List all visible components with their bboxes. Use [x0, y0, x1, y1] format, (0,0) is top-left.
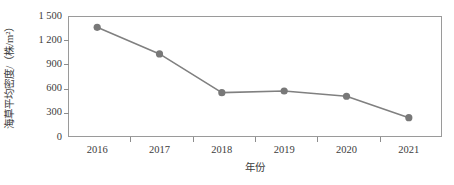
- x-axis-tick-mark: [255, 137, 256, 142]
- y-axis-tick-label: 1 500: [38, 11, 62, 22]
- y-axis-tick-label: 300: [46, 107, 62, 118]
- y-axis-title-text: 海草平均密度/（株/m²）: [6, 21, 17, 128]
- y-axis-title: 海草平均密度/（株/m²）: [0, 0, 22, 150]
- data-point-marker: [94, 24, 101, 31]
- x-axis-tick-label: 2021: [398, 145, 419, 156]
- data-point-marker: [281, 87, 288, 94]
- y-axis-tick-label: 900: [46, 59, 62, 70]
- x-axis-title: 年份: [68, 163, 442, 174]
- x-axis-tick-label: 2017: [149, 145, 170, 156]
- data-series-layer: [68, 16, 442, 137]
- data-point-marker: [343, 93, 350, 100]
- x-axis-tick-label: 2020: [336, 145, 357, 156]
- x-axis-tick-mark: [317, 137, 318, 142]
- y-axis-tick-mark: [64, 89, 69, 90]
- data-point-marker: [405, 114, 412, 121]
- x-axis-tick-mark: [130, 137, 131, 142]
- y-axis-tick-mark: [64, 40, 69, 41]
- seagrass-density-line-chart: 海草平均密度/（株/m²） 03006009001 2001 500 20162…: [0, 0, 454, 185]
- x-axis-tick-label: 2018: [211, 145, 232, 156]
- x-axis-tick-label: 2019: [274, 145, 295, 156]
- y-axis-tick-mark: [64, 64, 69, 65]
- series-markers: [94, 24, 413, 122]
- y-axis-tick-label: 0: [57, 132, 62, 143]
- data-point-marker: [218, 89, 225, 96]
- x-axis-tick-label: 2016: [87, 145, 108, 156]
- y-axis-tick-mark: [64, 113, 69, 114]
- series-line: [97, 27, 409, 117]
- data-point-marker: [156, 50, 163, 57]
- y-axis-tick-label: 1 200: [38, 35, 62, 46]
- x-axis-tick-mark: [380, 137, 381, 142]
- y-axis-tick-label: 600: [46, 83, 62, 94]
- x-axis-tick-mark: [193, 137, 194, 142]
- y-axis-tick-labels: 03006009001 2001 500: [20, 0, 66, 185]
